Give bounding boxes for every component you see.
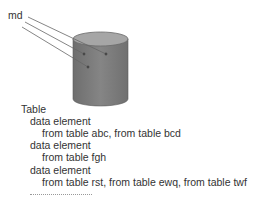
md-label: md xyxy=(8,9,23,21)
data-element-3: data element xyxy=(30,164,91,176)
continuation-dots xyxy=(30,194,92,195)
outline-title: Table xyxy=(21,103,46,115)
data-element-1: data element xyxy=(30,115,91,127)
database-cylinder-icon xyxy=(73,32,128,106)
data-element-3-sources: from table rst, from table ewq, from tab… xyxy=(42,176,247,188)
data-element-2: data element xyxy=(30,139,91,151)
data-element-1-sources: from table abc, from table bcd xyxy=(42,127,181,139)
data-element-2-sources: from table fgh xyxy=(42,151,106,163)
